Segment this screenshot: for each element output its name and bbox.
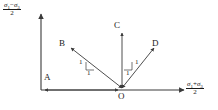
point-label-D: D [152, 39, 159, 48]
point-label-O: O [118, 92, 125, 101]
point-label-C: C [114, 21, 120, 30]
sigma1-subscript-y: 1 [7, 5, 10, 10]
slope-tick-right-horizontal: 1 [126, 70, 130, 77]
y-axis-label-denominator: 2 [3, 10, 21, 17]
slope-tick-left-horizontal: 1 [87, 70, 91, 77]
slope-tick-left-vertical: 1 [79, 59, 83, 66]
x-axis-label: σ1+σ3 2 [186, 81, 204, 97]
path-OD [122, 48, 154, 88]
y-axis-label: σ1−σ3 2 [3, 2, 21, 18]
slope-tick-right-vertical: 1 [135, 59, 139, 66]
sigma3-subscript-x: 3 [200, 84, 203, 89]
sigma1-subscript-x: 1 [190, 84, 193, 89]
point-label-A: A [44, 73, 51, 82]
stress-path-figure: σ1−σ3 2 σ1+σ3 2 A B C D O 1 1 1 1 [0, 0, 218, 110]
point-label-B: B [59, 39, 65, 48]
x-axis-label-denominator: 2 [186, 89, 204, 96]
sigma3-subscript-y: 3 [17, 5, 20, 10]
path-OB [71, 48, 122, 88]
